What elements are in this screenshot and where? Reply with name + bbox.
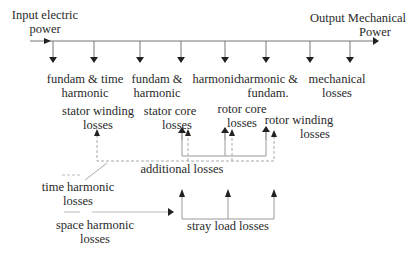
stray-load-losses-label: stray load losses [178,219,278,233]
output-power-label: Output MechanicalPower [303,11,413,39]
rotor-winding-losses-label: rotor windinglosses [258,113,340,141]
input-power-label: Input electricpower [8,8,82,36]
tap-label-fundam-time-harmonic: fundam & timeharmonic [40,72,130,100]
time-harmonic-pointer [85,163,107,180]
tap-label-mechanical-losses: mechanicallosses [304,72,370,100]
stray-load-up-arrows [179,189,277,197]
stator-core-losses-label: stator corelosses [138,104,202,132]
tap-label-fundam-harmonic: fundam &harmonic [124,72,190,100]
down-tap-arrows [53,41,350,62]
additional-losses-label: additional losses [132,162,232,176]
stator-winding-losses-label: stator windinglosses [58,104,138,132]
tap-label-harmonic-fundam: harmonic &fundam. [236,72,300,100]
space-harmonic-losses-label: space harmoniclosses [50,218,140,246]
time-harmonic-losses-label: time harmoniclosses [38,180,118,208]
input-arrow-icon [44,38,51,44]
time-harmonic-dashed-bracket [97,134,274,161]
